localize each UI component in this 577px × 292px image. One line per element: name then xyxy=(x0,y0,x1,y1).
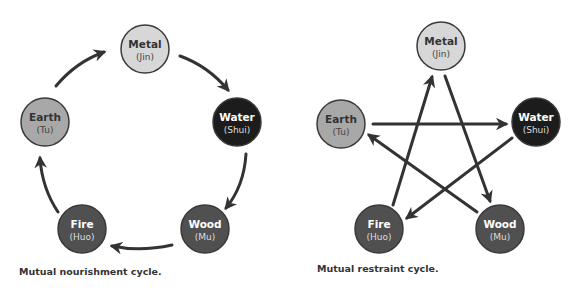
svg-text:Metal: Metal xyxy=(128,38,161,50)
restraint-arrows xyxy=(369,76,512,218)
svg-text:Earth: Earth xyxy=(325,113,357,125)
svg-text:(Tu): (Tu) xyxy=(37,125,54,135)
five-elements-diagrams: Metal (Jin) Water (Shui) Wood (Mu) Fire … xyxy=(0,0,577,292)
arrow-wood-to-earth xyxy=(369,135,477,212)
svg-text:(Mu): (Mu) xyxy=(195,232,216,242)
caption-restraint-cycle: Mutual restraint cycle. xyxy=(317,263,439,274)
node-wood-right: Wood (Mu) xyxy=(476,205,524,253)
svg-text:Wood: Wood xyxy=(188,218,221,230)
arrow-metal-to-water xyxy=(180,56,228,90)
node-water-left: Water (Shui) xyxy=(213,98,261,146)
svg-text:Fire: Fire xyxy=(367,218,390,230)
svg-text:(Huo): (Huo) xyxy=(366,232,391,242)
svg-text:Fire: Fire xyxy=(70,218,93,230)
arrow-water-to-wood xyxy=(226,154,246,208)
node-earth-left: Earth (Tu) xyxy=(21,98,69,146)
node-earth-right: Earth (Tu) xyxy=(317,100,365,148)
svg-text:(Huo): (Huo) xyxy=(69,232,94,242)
node-metal-left: Metal (Jin) xyxy=(121,25,169,73)
node-water-right: Water (Shui) xyxy=(512,98,560,146)
svg-text:(Shui): (Shui) xyxy=(224,125,251,135)
arrow-earth-to-metal xyxy=(56,52,104,86)
arrow-fire-to-earth xyxy=(40,158,58,212)
node-fire-left: Fire (Huo) xyxy=(58,205,106,253)
caption-nourishment-cycle: Mutual nourishment cycle. xyxy=(19,266,162,277)
arrow-wood-to-fire xyxy=(112,245,172,249)
svg-text:Metal: Metal xyxy=(424,35,457,47)
svg-text:Water: Water xyxy=(518,111,554,123)
svg-text:(Mu): (Mu) xyxy=(490,232,511,242)
svg-text:(Jin): (Jin) xyxy=(432,49,450,59)
node-fire-right: Fire (Huo) xyxy=(355,205,403,253)
svg-text:Wood: Wood xyxy=(483,218,516,230)
svg-text:(Jin): (Jin) xyxy=(136,52,154,62)
svg-text:(Shui): (Shui) xyxy=(523,125,550,135)
svg-text:Water: Water xyxy=(219,111,255,123)
arrow-fire-to-metal xyxy=(393,77,432,205)
svg-text:(Tu): (Tu) xyxy=(333,127,350,137)
node-wood-left: Wood (Mu) xyxy=(181,205,229,253)
node-metal-right: Metal (Jin) xyxy=(417,22,465,70)
svg-text:Earth: Earth xyxy=(29,111,61,123)
